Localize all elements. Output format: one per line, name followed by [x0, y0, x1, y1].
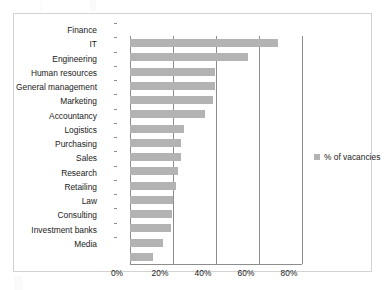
bar-row — [130, 50, 302, 64]
category-label: Law — [0, 196, 97, 206]
category-tick — [114, 23, 117, 24]
category-label: Consulting — [0, 210, 97, 220]
legend-swatch-icon — [314, 154, 320, 160]
category-tick — [114, 223, 117, 224]
bar — [130, 82, 215, 90]
category-tick — [114, 123, 117, 124]
category-tick — [114, 109, 117, 110]
category-tick — [114, 151, 117, 152]
bar-row — [130, 193, 302, 207]
bar-row — [130, 93, 302, 107]
category-tick — [114, 237, 117, 238]
bar-row — [130, 179, 302, 193]
category-tick — [114, 80, 117, 81]
bar — [130, 125, 184, 133]
category-label: Logistics — [0, 125, 97, 135]
scan-artifact-top — [0, 0, 386, 12]
value-tick-label: 80% — [269, 268, 309, 279]
category-tick — [114, 52, 117, 53]
value-tick-label: 60% — [226, 268, 266, 279]
gridline-80 — [302, 36, 303, 264]
category-label: Finance — [0, 25, 97, 35]
category-label: Media — [0, 239, 97, 249]
category-tick — [114, 66, 117, 67]
bar-row — [130, 79, 302, 93]
bar-row — [130, 250, 302, 264]
plot-area — [130, 36, 302, 264]
category-label: Marketing — [0, 96, 97, 106]
bar-row — [130, 164, 302, 178]
chart-screenshot: FinanceITEngineeringHuman resourcesGener… — [0, 0, 386, 290]
category-label: Retailing — [0, 182, 97, 192]
legend: % of vacancies — [314, 152, 380, 162]
category-label: General management — [0, 82, 97, 92]
category-label: Sales — [0, 153, 97, 163]
value-tick-label: 40% — [183, 268, 223, 279]
bar — [130, 196, 173, 204]
bar — [130, 139, 181, 147]
bar — [130, 210, 172, 218]
bar — [130, 110, 205, 118]
bar-row — [130, 122, 302, 136]
category-label: Purchasing — [0, 139, 97, 149]
bar — [130, 68, 215, 76]
bar — [130, 96, 213, 104]
category-tick — [114, 137, 117, 138]
bar — [130, 224, 171, 232]
bar-row — [130, 236, 302, 250]
bar — [130, 39, 278, 47]
value-axis-line — [130, 264, 302, 265]
bar-row — [130, 150, 302, 164]
bar-row — [130, 207, 302, 221]
bar — [130, 167, 178, 175]
chart-frame: FinanceITEngineeringHuman resourcesGener… — [13, 13, 372, 272]
category-tick — [114, 166, 117, 167]
category-label: Engineering — [0, 54, 97, 64]
bar — [130, 153, 181, 161]
category-tick — [114, 94, 117, 95]
category-label: Research — [0, 168, 97, 178]
bar — [130, 53, 248, 61]
category-tick — [114, 208, 117, 209]
category-tick — [114, 180, 117, 181]
bar — [130, 239, 163, 247]
bar — [130, 253, 153, 261]
value-tick-label: 0% — [97, 268, 137, 279]
category-label: Investment banks — [0, 225, 97, 235]
category-tick — [114, 37, 117, 38]
bar-row — [130, 107, 302, 121]
bar — [130, 182, 176, 190]
category-label: Accountancy — [0, 111, 97, 121]
category-label: IT — [0, 39, 97, 49]
category-tick — [114, 194, 117, 195]
bar-row — [130, 136, 302, 150]
category-label: Human resources — [0, 68, 97, 78]
value-tick-label: 20% — [140, 268, 180, 279]
bar-row — [130, 36, 302, 50]
legend-label: % of vacancies — [324, 152, 380, 162]
bar-row — [130, 65, 302, 79]
bar-row — [130, 221, 302, 235]
